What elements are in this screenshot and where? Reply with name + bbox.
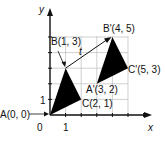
x-axis-label: x <box>147 122 154 133</box>
vector-label-t: t <box>79 46 83 57</box>
point-label-c: C(2, 1) <box>82 98 113 109</box>
y-axis-arrow-icon <box>47 8 53 16</box>
x-tick-label-1: 1 <box>63 122 69 133</box>
coordinate-plane: y x 0 1 1 t A(0, 0) B(1, 3) C(2, 1) A'(3… <box>0 0 165 141</box>
origin-label: 0 <box>37 122 43 133</box>
point-label-c-prime: C'(5, 3) <box>128 64 160 75</box>
point-label-b: B(1, 3) <box>51 36 81 47</box>
pointer-arrowhead-a-icon <box>44 112 49 117</box>
point-label-a: A(0, 0) <box>0 109 30 120</box>
vector-arrowhead-icon <box>104 37 112 43</box>
y-axis-label: y <box>38 4 45 15</box>
point-label-b-prime: B'(4, 5) <box>103 23 135 34</box>
point-label-a-prime: A'(3, 2) <box>86 84 118 95</box>
y-tick-label-1: 1 <box>40 95 46 106</box>
x-axis-arrow-icon <box>144 112 152 118</box>
